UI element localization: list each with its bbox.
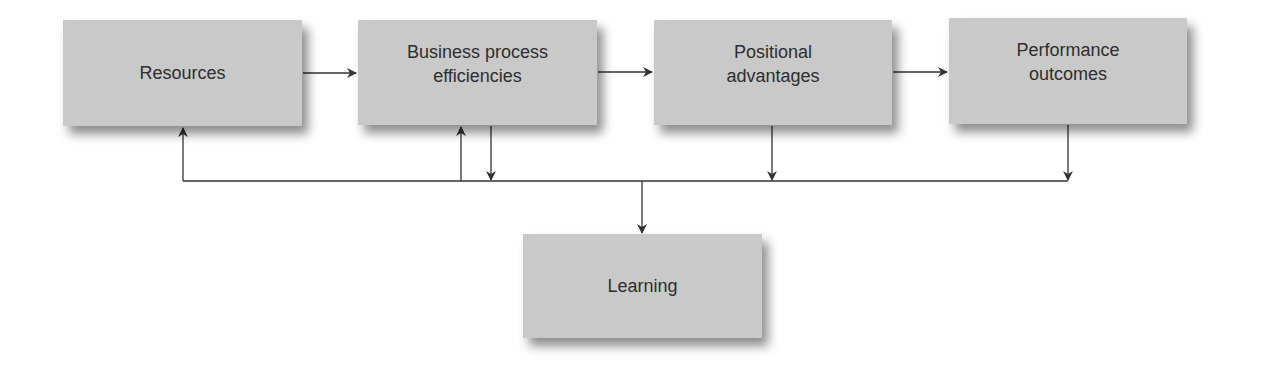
node-business-process-efficiencies: Business process efficiencies [358, 20, 597, 125]
node-label: Positional advantages [726, 40, 819, 88]
node-label: Resources [139, 61, 225, 85]
node-positional-advantages: Positional advantages [654, 20, 892, 125]
node-label: Performance outcomes [1016, 38, 1119, 86]
node-label: Business process efficiencies [407, 40, 548, 88]
node-label: Learning [607, 274, 677, 298]
node-resources: Resources [63, 20, 302, 126]
node-learning: Learning [523, 234, 762, 338]
node-performance-outcomes: Performance outcomes [949, 18, 1187, 124]
